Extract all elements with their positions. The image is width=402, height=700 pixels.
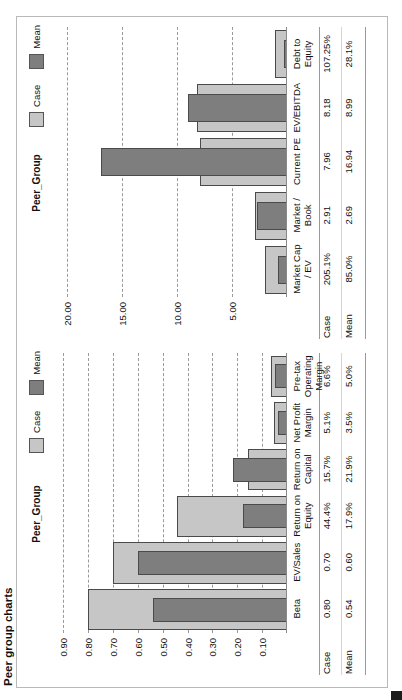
chart-1-category-row: BetaEV/SalesReturn on EquityReturn on Ca… xyxy=(291,353,321,675)
y-axis-tick-label: 0.30 xyxy=(207,638,218,657)
mean-value: 21.9% xyxy=(343,446,354,493)
chart-2-plot-area: 20.0015.0010.005.00 xyxy=(51,27,287,297)
mean-value: 17.9% xyxy=(343,493,354,540)
case-value: 107.25% xyxy=(321,27,332,81)
page-title: Peer group charts xyxy=(2,588,14,686)
bar-group xyxy=(51,493,287,540)
category-label: EV/Sales xyxy=(291,539,324,586)
mean-value: 28.1% xyxy=(343,27,354,81)
chart-2-value-table: Market Cap / EVMarket / BookCurrent PEEV… xyxy=(291,27,375,339)
bar-group xyxy=(51,27,287,81)
category-label: Net Profit Margin xyxy=(291,400,324,447)
y-axis-tick-label: 20.00 xyxy=(62,302,73,326)
mean-value: 5.0% xyxy=(343,353,354,400)
chart-legend: Case Mean xyxy=(29,351,44,453)
rotated-page-wrapper: Peer group charts Peer_Group Case Mean xyxy=(0,0,402,700)
bar-group xyxy=(51,446,287,493)
case-value: 5.1% xyxy=(321,400,332,447)
category-label: Market / Book xyxy=(291,188,313,242)
y-axis-tick-label: 0.70 xyxy=(108,638,119,657)
category-label: Current PE xyxy=(291,135,313,189)
chart-1-plot-area: 0.900.800.700.600.500.400.300.200.10 xyxy=(51,353,287,633)
mean-value: 0.60 xyxy=(343,539,354,586)
mean-value: 0.54 xyxy=(343,586,354,633)
y-axis-tick-label: 0.40 xyxy=(182,638,193,657)
document-page: Peer group charts Peer_Group Case Mean xyxy=(0,0,402,700)
bar-mean[interactable] xyxy=(101,148,287,176)
case-value: 0.70 xyxy=(321,539,332,586)
case-value: 0.80 xyxy=(321,586,332,633)
bar-group xyxy=(51,135,287,189)
mean-value: 8.99 xyxy=(343,81,354,135)
category-label: Pre-tax Operating Margin xyxy=(291,353,324,400)
case-value: 7.96 xyxy=(321,135,332,189)
legend-label-mean: Mean xyxy=(31,351,42,375)
mean-value: 85.0% xyxy=(343,242,354,296)
legend-swatch-mean-icon xyxy=(29,380,44,395)
bar-mean[interactable] xyxy=(257,202,287,230)
y-axis-tick-label: 0.90 xyxy=(58,638,69,657)
category-label: Market Cap / EV xyxy=(291,242,313,296)
legend-item-mean-2: Mean xyxy=(29,25,44,69)
y-axis-tick-label: 15.00 xyxy=(117,302,128,326)
bar-mean[interactable] xyxy=(153,598,287,622)
legend-swatch-case-icon xyxy=(29,438,44,453)
legend-item-case-2: Case xyxy=(29,85,44,127)
chart-2-category-row: Market Cap / EVMarket / BookCurrent PEEV… xyxy=(291,27,321,339)
peer-group-chart-2: Peer_Group Case Mean 20.0015.0010.005.00 xyxy=(25,23,381,343)
bar-group xyxy=(51,586,287,633)
legend-swatch-case-icon xyxy=(29,112,44,127)
bar-mean[interactable] xyxy=(138,551,287,575)
legend-label-mean-2: Mean xyxy=(31,25,42,49)
y-axis-tick-label: 0.60 xyxy=(132,638,143,657)
mean-value: 2.69 xyxy=(343,188,354,242)
bar-mean[interactable] xyxy=(188,94,287,122)
row-head-mean: Mean xyxy=(343,632,354,675)
legend-label-case: Case xyxy=(31,411,42,433)
case-value: 15.7% xyxy=(321,446,332,493)
mean-value: 16.94 xyxy=(343,135,354,189)
y-axis-tick-label: 0.50 xyxy=(157,638,168,657)
y-axis-tick-label: 0.10 xyxy=(257,638,268,657)
bar-group xyxy=(51,81,287,135)
category-label: Beta xyxy=(291,586,324,633)
bar-mean[interactable] xyxy=(243,504,287,528)
legend-item-mean: Mean xyxy=(29,351,44,395)
bar-group xyxy=(51,353,287,400)
category-label: Return on Equity xyxy=(291,493,324,540)
bar-group xyxy=(51,243,287,297)
case-value: 44.4% xyxy=(321,493,332,540)
mean-value: 3.5% xyxy=(343,400,354,447)
category-label: Return on Capital xyxy=(291,446,324,493)
chart-2-mean-row: Mean 85.0%2.6916.948.9928.1% xyxy=(343,27,369,339)
y-axis-tick-label: 10.00 xyxy=(172,302,183,326)
y-axis-tick-label: 5.00 xyxy=(227,302,238,321)
chart-1-value-table: BetaEV/SalesReturn on EquityReturn on Ca… xyxy=(291,353,375,675)
legend-label-case-2: Case xyxy=(31,85,42,107)
legend-swatch-mean-icon xyxy=(29,54,44,69)
category-label: EV/EBITDA xyxy=(291,81,313,135)
chart-2-bar-groups xyxy=(51,27,287,297)
bar-group xyxy=(51,189,287,243)
chart-2-axis-line xyxy=(286,27,287,297)
chart-1-bar-groups xyxy=(51,353,287,633)
row-head-mean: Mean xyxy=(343,296,354,339)
row-head-case: Case xyxy=(321,296,332,339)
legend-item-case: Case xyxy=(29,411,44,453)
row-head-case: Case xyxy=(321,632,332,675)
case-value: 205.1% xyxy=(321,242,332,296)
category-label: Debt to Equity xyxy=(291,27,313,81)
chart-1-axis-line xyxy=(286,353,287,633)
y-axis-tick-label: 0.80 xyxy=(83,638,94,657)
bar-group xyxy=(51,540,287,587)
chart-1-mean-row: Mean 0.540.6017.9%21.9%3.5%5.0% xyxy=(343,353,369,675)
bar-mean[interactable] xyxy=(233,458,287,482)
charts-frame: Peer_Group Case Mean 0.900.800.700.600.5… xyxy=(16,16,388,688)
case-value: 2.91 xyxy=(321,188,332,242)
page-corner-mark xyxy=(391,691,402,700)
y-axis-tick-label: 0.20 xyxy=(232,638,243,657)
case-value: 6.6% xyxy=(321,353,332,400)
chart-legend-2: Case Mean xyxy=(29,25,44,127)
peer-group-chart-1: Peer_Group Case Mean 0.900.800.700.600.5… xyxy=(25,349,381,679)
bar-group xyxy=(51,400,287,447)
